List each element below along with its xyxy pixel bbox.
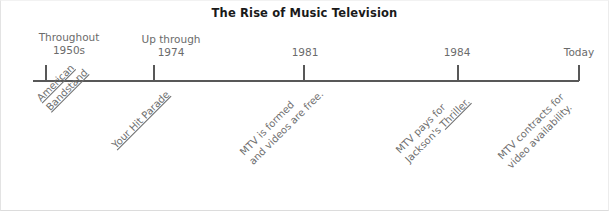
date-label-1974: Up through 1974 xyxy=(142,33,201,58)
date-label-1950s-line2: 1950s xyxy=(39,44,100,57)
event-label-your-hit-parade-line1: Your Hit Parade xyxy=(109,88,172,151)
date-label-1981: 1981 xyxy=(292,46,319,59)
timeline-tick-1950s xyxy=(45,65,47,81)
timeline-tick-1981 xyxy=(303,65,305,81)
event-label-mtv-formed: MTV is formed and videos are free. xyxy=(237,78,326,167)
date-label-1981-line2: 1981 xyxy=(292,46,319,59)
timeline-tick-1974 xyxy=(153,65,155,81)
event-label-your-hit-parade: Your Hit Parade xyxy=(109,88,172,151)
page-title: The Rise of Music Television xyxy=(1,6,608,20)
timeline-tick-today xyxy=(578,65,580,81)
event-label-american-bandstand: American Bandstand xyxy=(34,57,90,113)
date-label-1950s: Throughout 1950s xyxy=(39,31,100,56)
event-label-mtv-contracts: MTV contracts for video availability. xyxy=(495,90,576,171)
date-label-1974-line1: Up through xyxy=(142,33,201,46)
date-label-1950s-line1: Throughout xyxy=(39,31,100,44)
event-label-mtv-thriller: MTV pays for Jackson's Thriller. xyxy=(393,86,473,166)
date-label-1984-line2: 1984 xyxy=(444,46,471,59)
date-label-today: Today xyxy=(564,46,594,59)
date-label-today-line2: Today xyxy=(564,46,594,59)
timeline-tick-1984 xyxy=(457,65,459,81)
date-label-1974-line2: 1974 xyxy=(142,46,201,59)
timeline-figure: The Rise of Music Television Throughout … xyxy=(0,0,609,211)
event-label-mtv-formed-line1: MTV is formed xyxy=(237,78,317,158)
date-label-1984: 1984 xyxy=(444,46,471,59)
